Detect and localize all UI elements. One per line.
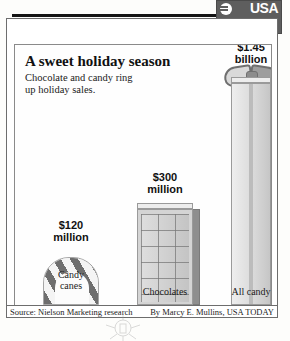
bar-all-candy: All candy <box>231 83 271 305</box>
subhead-line-2: up holiday sales. <box>25 84 133 96</box>
value-label-all-candy-amount: $1.45 <box>225 44 272 53</box>
chart-panel: A sweet holiday season Chocolate and can… <box>14 44 272 306</box>
logo-usa-text: USA <box>250 1 278 16</box>
credit-text: By Marcy E. Mullins, USA TODAY <box>150 307 274 317</box>
bar-all-candy-face <box>231 83 271 305</box>
value-label-candy-canes-unit: million <box>43 231 99 243</box>
bar-candy-canes: Candy canes <box>43 257 99 305</box>
value-label-chocolates: $300 million <box>137 171 193 195</box>
value-label-candy-canes-amount: $120 <box>43 219 99 231</box>
headline: A sweet holiday season <box>25 53 170 70</box>
category-label-chocolates: Chocolates <box>137 286 193 297</box>
masthead-rule <box>12 14 217 17</box>
bar-all-candy-side <box>271 83 272 305</box>
category-label-all-candy: All candy <box>231 286 271 297</box>
gift-ribbon-stripe <box>249 84 253 304</box>
decorative-sketch-icon <box>96 314 150 341</box>
category-label-candy-canes-line2: canes <box>43 280 99 291</box>
subhead: Chocolate and candy ring up holiday sale… <box>25 72 133 96</box>
value-label-candy-canes: $120 million <box>43 219 99 243</box>
value-label-chocolates-amount: $300 <box>137 171 193 183</box>
value-label-all-candy-unit: billion <box>225 53 272 65</box>
value-label-all-candy: $1.45 billion <box>225 44 272 65</box>
category-label-candy-canes: Candy canes <box>43 269 99 291</box>
category-label-candy-canes-line1: Candy <box>43 269 99 280</box>
value-label-chocolates-unit: million <box>137 183 193 195</box>
globe-swirl-icon <box>220 3 232 15</box>
category-label-chocolates-text: Chocolates <box>143 286 187 297</box>
bar-chocolates: Chocolates <box>137 209 193 305</box>
bar-chocolates-side <box>193 209 200 305</box>
category-label-all-candy-text: All candy <box>231 286 270 297</box>
usa-today-snapshot-infographic: USA TODAY Snapshots® USA TODAY A sweet h… <box>0 0 290 341</box>
subhead-line-1: Chocolate and candy ring <box>25 72 133 84</box>
